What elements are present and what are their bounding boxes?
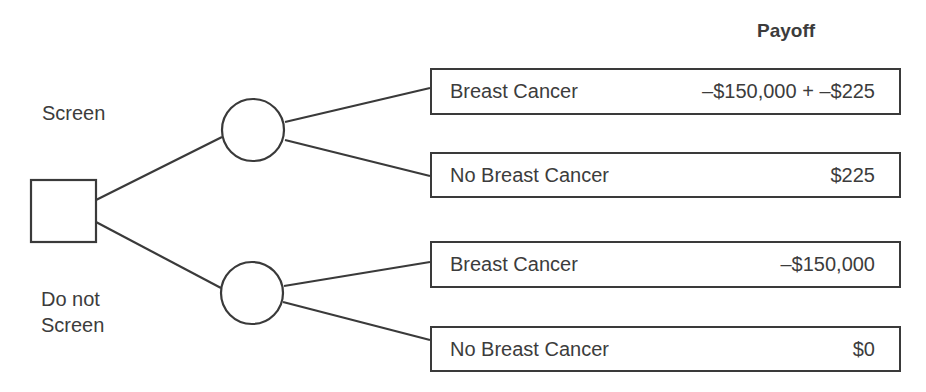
outcome-box-screen-no-cancer: No Breast Cancer $225 <box>430 152 901 198</box>
outcome-label: No Breast Cancer <box>450 338 609 361</box>
outcome-label: Breast Cancer <box>450 253 578 276</box>
chance-node-screen <box>222 99 284 161</box>
outcome-box-noscreen-no-cancer: No Breast Cancer $0 <box>430 326 901 372</box>
outcome-label: Breast Cancer <box>450 80 578 103</box>
payoff-header: Payoff <box>757 20 815 42</box>
edge-noscreen-cancer <box>284 262 430 286</box>
branch-label-do-not-line1: Do not <box>41 287 100 311</box>
outcome-payoff: –$150,000 <box>780 253 875 276</box>
outcome-payoff: $0 <box>853 338 875 361</box>
branch-label-screen: Screen <box>42 101 105 125</box>
outcome-label: No Breast Cancer <box>450 164 609 187</box>
edge-screen <box>96 137 222 200</box>
decision-node-square <box>31 180 96 242</box>
branch-label-do-not-line2: Screen <box>41 313 104 337</box>
edge-screen-cancer <box>285 88 430 122</box>
outcome-payoff: –$150,000 + –$225 <box>702 80 875 103</box>
edge-do-not-screen <box>96 222 221 288</box>
edge-noscreen-no-cancer <box>283 302 430 340</box>
outcome-payoff: $225 <box>831 164 876 187</box>
chance-node-do-not-screen <box>221 262 283 324</box>
outcome-box-noscreen-cancer: Breast Cancer –$150,000 <box>430 241 901 288</box>
edge-screen-no-cancer <box>285 140 430 176</box>
outcome-box-screen-cancer: Breast Cancer –$150,000 + –$225 <box>430 68 901 115</box>
